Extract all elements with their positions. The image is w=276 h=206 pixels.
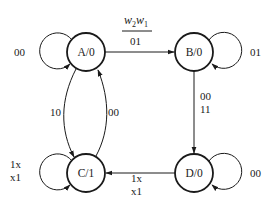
- transition-label-line1: 1x: [131, 172, 143, 184]
- transition-label: 01: [250, 46, 261, 58]
- transition-label-line1: 1x: [10, 158, 22, 170]
- state-B: B/0: [175, 33, 213, 71]
- self-loop-arrow: [209, 153, 242, 189]
- input-variables-header: w2w1: [122, 13, 152, 31]
- state-label: C/1: [78, 167, 95, 179]
- transition-label-line2: x1: [131, 185, 142, 197]
- transition-A-C: 10: [50, 69, 76, 157]
- transition-B-B: 01: [209, 32, 261, 68]
- transition-C-A: 00: [96, 70, 120, 156]
- transition-label: 01: [130, 35, 141, 47]
- transition-label: 00: [250, 167, 262, 179]
- transition-A-B: 01: [105, 35, 174, 52]
- edge-arrow: [64, 69, 76, 157]
- state-label: D/0: [185, 167, 203, 179]
- state-A: A/0: [67, 33, 105, 71]
- self-loop-arrow: [209, 32, 242, 68]
- transition-label: 00: [14, 46, 26, 58]
- transition-D-C: 1x x1: [106, 172, 175, 197]
- transition-A-A: 00: [14, 33, 72, 69]
- transition-label-line1: 00: [200, 90, 212, 102]
- transition-D-D: 00: [209, 153, 262, 189]
- transition-C-C: 1x x1: [10, 154, 72, 190]
- edge-arrow: [96, 70, 107, 156]
- variable-w2: w2w1: [124, 13, 148, 29]
- state-label: B/0: [186, 46, 203, 58]
- state-diagram: w2w1 00 01 10 00 01 00 11 00 1x x1: [0, 0, 276, 206]
- state-D: D/0: [175, 154, 213, 192]
- transition-label-line2: x1: [10, 171, 21, 183]
- transition-B-D: 00 11: [194, 71, 212, 153]
- state-label: A/0: [77, 46, 95, 58]
- transition-label: 10: [50, 106, 62, 118]
- transition-label-line2: 11: [200, 103, 211, 115]
- state-C: C/1: [67, 154, 105, 192]
- transition-label: 00: [108, 106, 120, 118]
